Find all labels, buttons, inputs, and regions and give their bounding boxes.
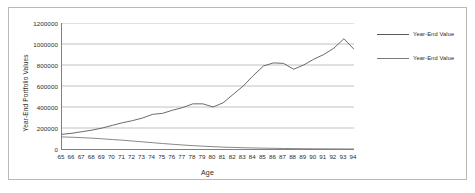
chart-series-line [62, 137, 354, 149]
chart-legend: Year-End ValueYear-End Value [377, 28, 473, 76]
plot-area [61, 23, 354, 150]
legend-swatch-icon [377, 58, 409, 59]
y-axis-tick-label: 600000 [12, 83, 58, 90]
legend-item-label: Year-End Value [413, 28, 454, 40]
x-axis-title: Age [61, 169, 354, 176]
x-axis-tick-labels: 6566676869707172737475767778798081828384… [61, 153, 354, 163]
y-axis-tick-label: 800000 [12, 62, 58, 69]
legend-item[interactable]: Year-End Value [377, 52, 473, 64]
x-axis-tick-label: 94 [346, 153, 360, 161]
chart-frame: Year-End Portfolio Values 12000001000000… [8, 7, 467, 180]
y-axis-tick-label: 200000 [12, 125, 58, 132]
y-axis-tick-label: 0 [12, 146, 58, 153]
legend-item[interactable]: Year-End Value [377, 28, 473, 40]
chart-series-line [62, 39, 354, 135]
legend-item-label: Year-End Value [413, 52, 454, 64]
chart-lines [62, 23, 354, 149]
y-axis-tick-label: 400000 [12, 104, 58, 111]
y-axis-tick-label: 1200000 [12, 20, 58, 27]
y-axis-tick-labels: 120000010000008000006000004000002000000 [9, 8, 58, 193]
legend-swatch-icon [377, 34, 409, 35]
y-axis-tick-label: 1000000 [12, 41, 58, 48]
